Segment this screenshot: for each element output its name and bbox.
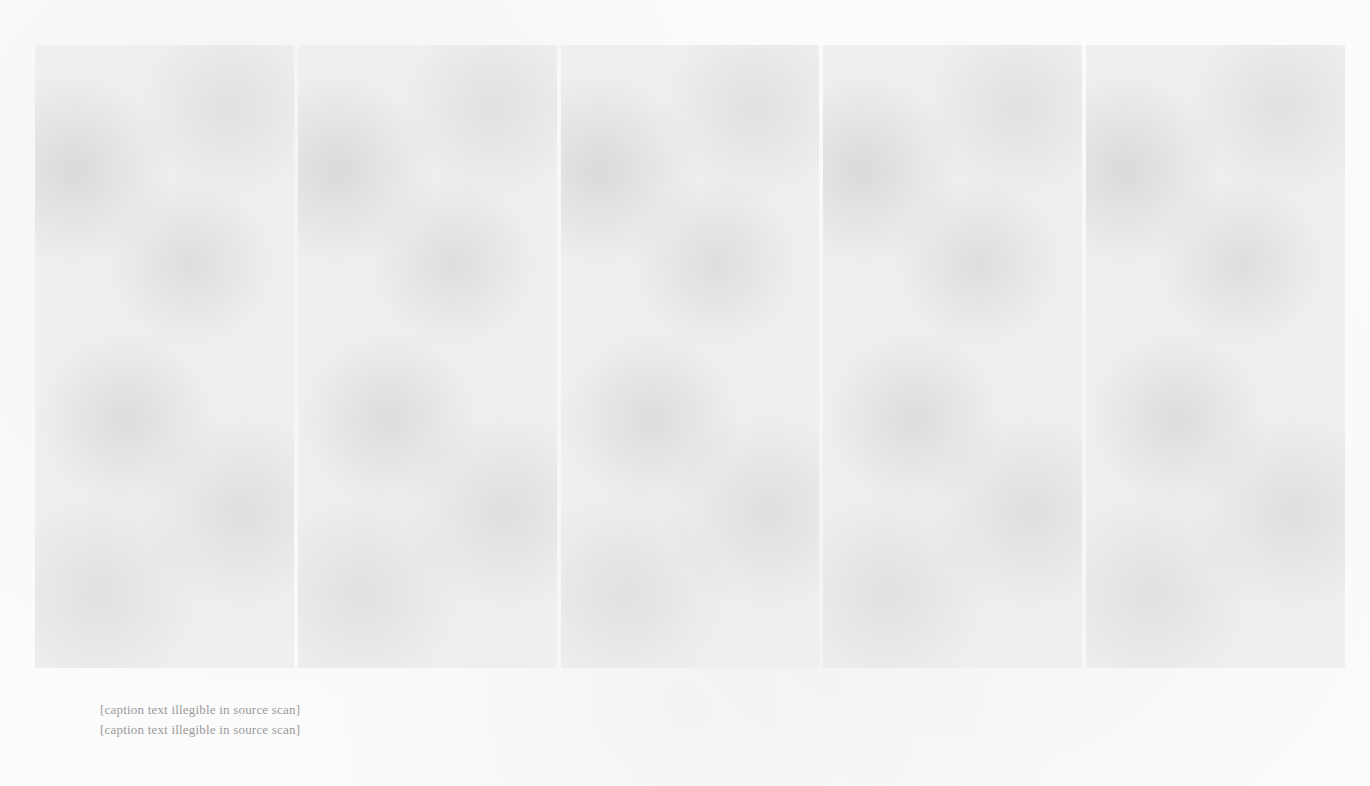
figure-panel-5: [1086, 45, 1345, 668]
figure-panels: [35, 45, 1345, 668]
caption-line-1: [caption text illegible in source scan]: [100, 700, 1360, 720]
figure-caption: [caption text illegible in source scan] …: [100, 700, 1360, 740]
figure-panel-4: [823, 45, 1082, 668]
figure-panel-2: [298, 45, 557, 668]
caption-line-2: [caption text illegible in source scan]: [100, 720, 1360, 740]
figure-panel-1: [35, 45, 294, 668]
figure-panel-3: [561, 45, 820, 668]
